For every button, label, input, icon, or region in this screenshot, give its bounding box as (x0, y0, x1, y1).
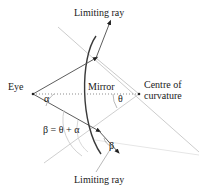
label-limiting-ray-top: Limiting ray (74, 8, 124, 19)
eye-point-dot (32, 93, 35, 96)
label-alpha: α (44, 94, 49, 105)
label-centre-of-curvature: Centre of curvature (144, 80, 182, 101)
label-centre-line1: Centre of (144, 80, 182, 91)
label-theta: θ (118, 94, 123, 105)
label-beta: β (109, 141, 114, 152)
upper-limiting-ray (96, 22, 110, 58)
label-mirror: Mirror (88, 82, 115, 93)
mirror-arc (85, 36, 101, 154)
diagram-canvas: Limiting ray Limiting ray Eye Mirror Cen… (0, 0, 199, 194)
label-eye: Eye (8, 82, 24, 93)
centre-point-dot (138, 93, 141, 96)
label-beta-equation: β = θ + α (43, 125, 79, 136)
upper-ray-from-eye (33, 58, 96, 94)
label-centre-line2: curvature (144, 91, 182, 102)
label-limiting-ray-bottom: Limiting ray (74, 175, 124, 186)
theta-angle-arc (113, 94, 117, 108)
